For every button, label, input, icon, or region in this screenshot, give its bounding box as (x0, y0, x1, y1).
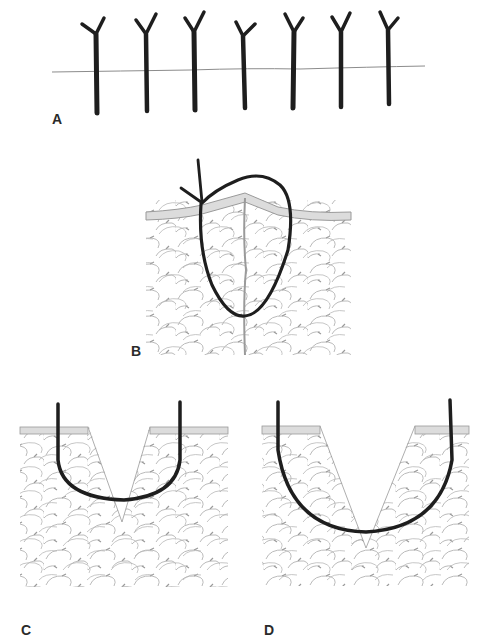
suture-illustration (0, 0, 487, 644)
skin-surface-right (150, 427, 228, 434)
panel-label-b: B (131, 344, 141, 358)
panel-c (20, 402, 228, 587)
suture-a1 (82, 18, 104, 113)
panel-b (146, 160, 351, 355)
suture-a6 (332, 13, 350, 107)
skin-surface-left (262, 426, 320, 434)
needle-icon (198, 160, 202, 202)
panel-label-c: C (21, 623, 31, 637)
suture-a2 (136, 14, 156, 111)
skin-surface-right (415, 426, 469, 434)
panel-d (262, 400, 469, 586)
panel-a (52, 12, 425, 113)
panel-label-d: D (264, 623, 274, 637)
arrow-head-icon (181, 188, 201, 202)
suture-a5 (285, 14, 303, 108)
incision-line (52, 66, 425, 72)
suture-a7 (380, 12, 398, 104)
suture-a3 (185, 12, 204, 110)
suture-a4 (236, 22, 255, 108)
skin-surface-left (20, 427, 88, 434)
panel-label-a: A (52, 112, 62, 126)
